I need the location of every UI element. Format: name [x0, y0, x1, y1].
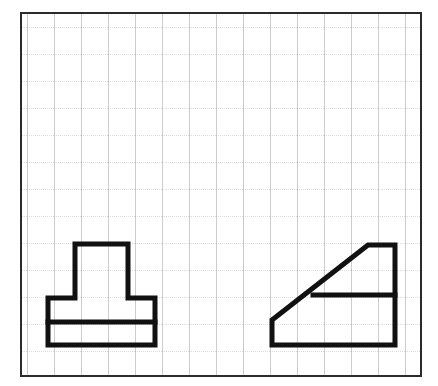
worksheet-canvas: [0, 0, 438, 386]
drawing-canvas: [0, 0, 438, 386]
